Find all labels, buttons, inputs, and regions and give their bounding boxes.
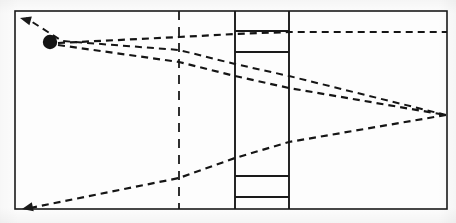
diagram-svg [0, 0, 456, 223]
ray-lower-exit-left [30, 115, 446, 208]
ray-diagram-canvas [0, 0, 456, 223]
outer-frame [15, 11, 447, 209]
point-source [43, 35, 57, 49]
ray-lower-source-to-right [58, 45, 446, 115]
arrowhead-top-left-icon [20, 16, 32, 25]
ray-upper-source-to-right [58, 32, 447, 43]
arrowhead-bottom-left-icon [22, 202, 34, 211]
